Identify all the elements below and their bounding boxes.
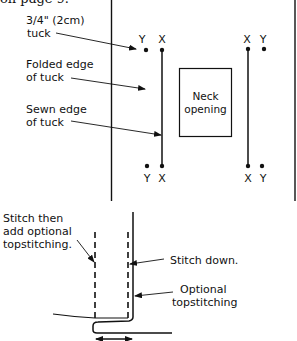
markers-bottom-left: Y X [143, 164, 167, 185]
header-partial-text: on page 9. [0, 0, 69, 6]
sewn-edge-label: Sewn edge of tuck [26, 103, 87, 129]
svg-text:Optional: Optional [180, 283, 227, 296]
svg-text:Sewn edge: Sewn edge [26, 103, 87, 116]
neck-opening-box: Neck opening [180, 69, 232, 137]
sewn-edge-arrow [71, 121, 161, 135]
folded-edge-arrow [71, 78, 145, 89]
svg-text:add optional: add optional [3, 225, 72, 238]
tuck-instruction-diagram: on page 9. 3/4" (2cm) tuck Folded edge o… [0, 0, 297, 341]
tuck-size-arrow [56, 33, 136, 49]
stitch-down-label: Stitch down. [170, 254, 238, 267]
svg-text:of tuck: of tuck [26, 116, 64, 129]
svg-text:Y: Y [259, 172, 267, 185]
markers-top-left: Y X [138, 33, 167, 52]
svg-text:X: X [244, 172, 252, 185]
markers-bottom-right: X Y [244, 164, 266, 185]
tuck-size-label: 3/4" (2cm) tuck [26, 14, 85, 40]
svg-text:Y: Y [143, 172, 151, 185]
svg-text:X: X [243, 33, 251, 46]
optional-topstitching-arrow [135, 292, 173, 296]
stitch-then-arrow [77, 240, 94, 262]
svg-text:topstitching.: topstitching. [3, 238, 72, 251]
svg-text:tuck: tuck [27, 27, 51, 40]
svg-text:opening: opening [184, 103, 226, 115]
stitch-then-label: Stitch then add optional topstitching. [3, 212, 72, 251]
markers-top-right: X Y [243, 33, 266, 51]
svg-text:Neck: Neck [192, 90, 219, 102]
svg-text:Y: Y [259, 33, 267, 46]
svg-text:topstitching: topstitching [172, 296, 237, 309]
optional-topstitching-label: Optional topstitching [172, 283, 237, 309]
svg-text:of tuck: of tuck [26, 71, 64, 84]
svg-text:Folded edge: Folded edge [26, 58, 94, 71]
svg-text:3/4" (2cm): 3/4" (2cm) [26, 14, 85, 27]
svg-text:X: X [158, 33, 166, 46]
svg-text:Y: Y [138, 33, 146, 46]
stitch-down-arrow [130, 259, 164, 264]
svg-text:Stitch then: Stitch then [3, 212, 63, 225]
svg-text:X: X [158, 172, 166, 185]
